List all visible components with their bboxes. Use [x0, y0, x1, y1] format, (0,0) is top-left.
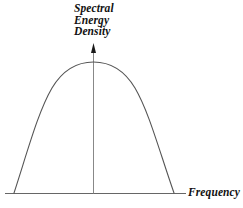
- y-axis-label-line-3: Density: [74, 26, 114, 38]
- y-axis-label-line-1: Spectral: [74, 3, 114, 15]
- x-axis-label: Frequency: [188, 186, 240, 198]
- plot-canvas: [0, 0, 243, 208]
- y-axis-label: Spectral Energy Density: [74, 3, 114, 38]
- spectral-energy-density-figure: Spectral Energy Density Frequency: [0, 0, 243, 208]
- y-axis-arrowhead-icon: [91, 43, 96, 53]
